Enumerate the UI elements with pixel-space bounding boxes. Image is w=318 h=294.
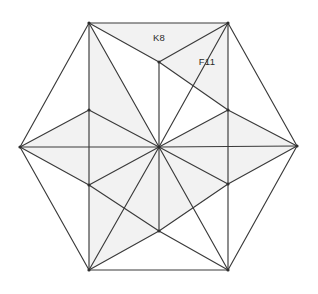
vertex-square-top-left bbox=[87, 21, 90, 24]
vertex-bottom-mid bbox=[157, 229, 160, 232]
figure-canvas: K8F11 bbox=[0, 0, 318, 294]
vertex-mid-right-upper bbox=[226, 108, 229, 111]
vertex-square-bottom-right bbox=[226, 268, 229, 271]
label-k8: K8 bbox=[153, 32, 165, 43]
vertex-mid-left-upper bbox=[87, 108, 90, 111]
vertex-hex-right bbox=[295, 144, 298, 147]
label-f11: F11 bbox=[199, 56, 216, 67]
vertex-top-mid bbox=[157, 60, 160, 63]
vertex-mid-right-lower bbox=[226, 182, 229, 185]
vertex-hex-left bbox=[18, 145, 21, 148]
vertex-mid-left-lower bbox=[87, 183, 90, 186]
vertex-square-top-right bbox=[226, 21, 229, 24]
vertex-center-hub bbox=[157, 145, 160, 148]
vertex-square-bottom-left bbox=[87, 268, 90, 271]
hexagon-mesh-diagram: K8F11 bbox=[0, 0, 318, 294]
